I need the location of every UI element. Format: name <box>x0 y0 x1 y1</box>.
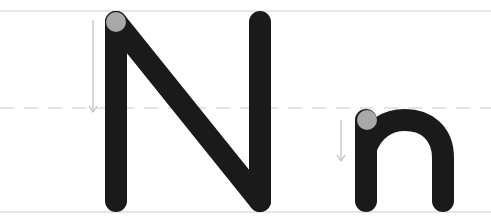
handwriting-worksheet <box>0 0 491 222</box>
start-dot-uppercase <box>106 12 126 32</box>
lowercase-n-letter <box>366 120 443 201</box>
start-dot-lowercase <box>357 110 377 130</box>
arrow-down-icon-uppercase <box>89 20 97 112</box>
n-stroke-diagonal <box>116 22 260 201</box>
letter-canvas <box>0 0 491 222</box>
uppercase-n-letter <box>116 22 260 201</box>
arrow-down-icon-lowercase <box>337 120 345 161</box>
n-lower-arch <box>366 120 443 201</box>
